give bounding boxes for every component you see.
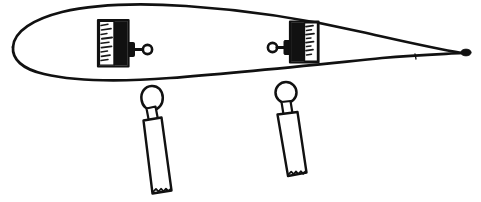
right-pendant-tool[interactable] — [276, 82, 307, 176]
right-block-knob[interactable] — [268, 41, 292, 55]
hull-outline — [13, 4, 471, 80]
right-block-dark-panel — [291, 23, 304, 62]
hull-tip-blob — [461, 49, 471, 56]
right-pendant-head — [276, 82, 297, 103]
left-block[interactable] — [98, 20, 152, 67]
drawing-canvas: Hand-drawn hull profile with two mounted… — [0, 0, 481, 202]
left-block-dark-panel — [114, 21, 127, 65]
right-block[interactable] — [268, 22, 319, 63]
left-block-knob[interactable] — [127, 43, 152, 57]
hand-drawn-illustration: Hand-drawn hull profile with two mounted… — [0, 0, 481, 202]
right-pendant-body — [278, 112, 307, 176]
left-block-ring[interactable] — [143, 45, 152, 54]
left-pendant-tool[interactable] — [141, 86, 171, 194]
left-pendant-body — [144, 118, 172, 194]
